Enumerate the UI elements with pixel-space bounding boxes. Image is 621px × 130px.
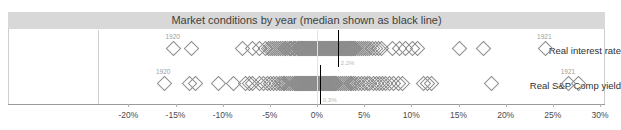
x-axis-tick <box>317 104 318 107</box>
year-annotation: 1920 <box>156 68 170 75</box>
x-axis-tick-label: 5% <box>358 110 370 120</box>
x-axis-tick-label: 20% <box>497 110 514 120</box>
x-axis-tick-label: 25% <box>544 110 561 120</box>
x-axis-line <box>8 104 605 105</box>
x-axis-tick <box>270 104 271 107</box>
category-label-divider <box>98 30 99 104</box>
x-axis-tick-label: 15% <box>450 110 467 120</box>
zero-gridline <box>317 30 318 104</box>
x-axis-tick <box>553 104 554 107</box>
year-annotation: 1921 <box>561 68 575 75</box>
median-value-label: 0.3% <box>323 97 337 103</box>
x-axis-tick-label: 10% <box>403 110 420 120</box>
x-axis-tick-label: -20% <box>118 110 138 120</box>
chart-title: Market conditions by year (median shown … <box>8 12 605 29</box>
x-axis-tick-label: 0% <box>311 110 323 120</box>
x-axis-tick-label: 30% <box>591 110 608 120</box>
category-label-real-interest-rate: Real interest rate <box>529 45 621 56</box>
x-axis-tick <box>176 104 177 107</box>
chart-figure: Market conditions by year (median shown … <box>0 0 621 130</box>
x-axis-tick <box>411 104 412 107</box>
x-axis-tick <box>128 104 129 107</box>
x-axis-tick-label: -5% <box>262 110 277 120</box>
year-annotation: 1920 <box>165 33 179 40</box>
x-axis-tick <box>506 104 507 107</box>
x-axis-tick <box>223 104 224 107</box>
median-line <box>320 65 321 104</box>
x-axis-tick <box>459 104 460 107</box>
chart-title-band: Market conditions by year (median shown … <box>8 12 605 29</box>
year-annotation: 1921 <box>537 33 551 40</box>
x-axis-tick-label: -10% <box>213 110 233 120</box>
median-line <box>338 30 339 67</box>
median-value-label: 2.2% <box>341 60 355 66</box>
x-axis-tick <box>364 104 365 107</box>
x-axis-tick <box>600 104 601 107</box>
category-label-real-sp-comp-yield: Real S&P Comp yield <box>529 80 621 91</box>
x-axis-tick-label: -15% <box>166 110 186 120</box>
